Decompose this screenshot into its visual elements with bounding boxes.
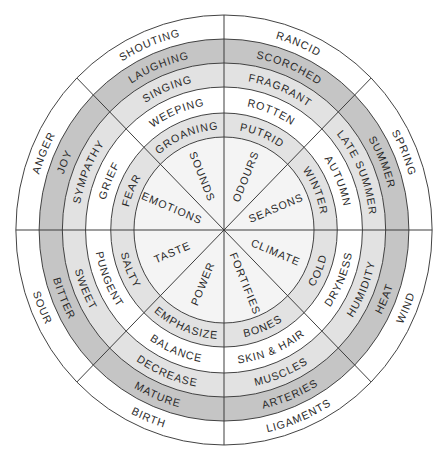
wheel-root: RANCIDSCORCHEDFRAGRANTROTTENPUTRIDSHOUTI…	[16, 15, 432, 445]
sector-dividers	[16, 15, 432, 445]
correspondence-wheel-diagram: RANCIDSCORCHEDFRAGRANTROTTENPUTRIDSHOUTI…	[0, 0, 446, 460]
